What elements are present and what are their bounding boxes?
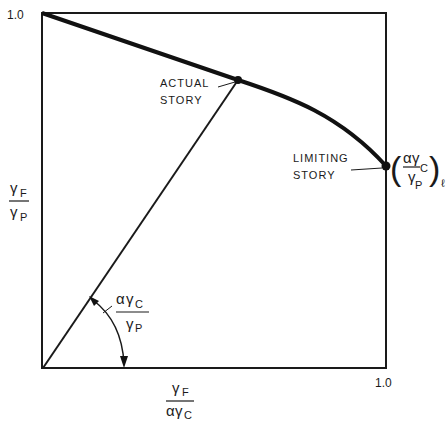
actual-story-leader (218, 82, 235, 87)
diagram-canvas: 1.0 1.0 ACTUAL STORY LIMITING STORY γ F … (0, 0, 447, 424)
svg-text:P: P (415, 179, 422, 191)
x-tick-max: 1.0 (375, 376, 392, 390)
svg-text:F: F (182, 386, 189, 398)
svg-text:F: F (20, 187, 27, 199)
svg-text:P: P (20, 211, 27, 223)
interaction-curve (42, 13, 386, 166)
actual-story-point (234, 76, 242, 84)
svg-text:γ: γ (172, 379, 180, 396)
actual-story-label-line2: STORY (160, 94, 203, 106)
arc-end-arrowhead-icon (120, 356, 128, 368)
actual-story-label-line1: ACTUAL (160, 77, 209, 89)
svg-text:γ: γ (412, 149, 420, 166)
svg-text:(: ( (390, 149, 402, 187)
svg-text:ℓ: ℓ (441, 177, 445, 189)
angle-label: α γ C γ P (116, 290, 149, 334)
x-axis-label: γ F α γ C (166, 379, 194, 421)
limiting-value-label: ( α γ C γ P ) ℓ (390, 149, 445, 191)
y-tick-max: 1.0 (7, 8, 24, 22)
svg-text:γ: γ (126, 290, 134, 307)
plot-frame (42, 13, 386, 368)
svg-text:γ: γ (126, 315, 134, 332)
svg-text:C: C (135, 298, 143, 310)
svg-text:γ: γ (10, 203, 18, 220)
limiting-story-label-line1: LIMITING (293, 152, 349, 164)
svg-text:P: P (135, 322, 142, 334)
angle-arc (93, 300, 124, 364)
svg-text:C: C (184, 409, 192, 421)
limiting-story-leader (351, 168, 382, 170)
limiting-story-label-line2: STORY (293, 169, 336, 181)
svg-text:α: α (116, 290, 125, 307)
svg-text:γ: γ (10, 179, 18, 196)
svg-text:γ: γ (175, 402, 183, 419)
svg-text:α: α (403, 149, 412, 166)
y-axis-label: γ F γ P (9, 179, 29, 223)
svg-text:): ) (429, 149, 440, 187)
svg-text:α: α (166, 402, 175, 419)
svg-text:C: C (420, 162, 428, 174)
